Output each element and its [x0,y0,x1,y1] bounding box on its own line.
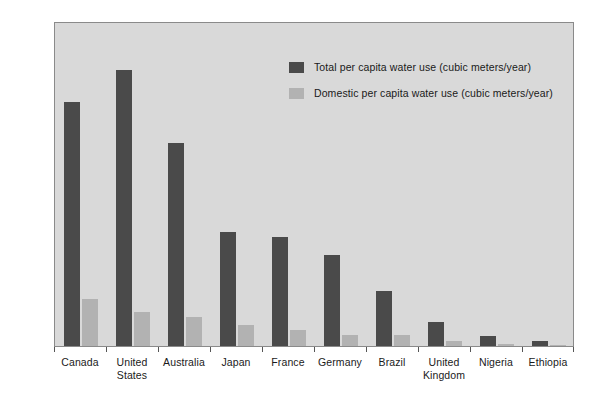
bar-domestic [134,312,150,346]
x-axis-tick-mark [54,347,55,352]
x-axis-tick-mark [314,347,315,352]
bar-domestic [550,345,566,346]
legend-label-domestic: Domestic per capita water use (cubic met… [314,87,553,99]
legend-item-domestic: Domestic per capita water use (cubic met… [289,83,553,103]
x-axis-tick-mark [262,347,263,352]
legend-swatch-total-icon [289,62,304,73]
bar-total [168,143,184,346]
bar-chart: 0500100015002000 CanadaUnited StatesAust… [0,0,592,399]
x-axis: CanadaUnited StatesAustraliaJapanFranceG… [54,347,574,399]
bar-total [532,341,548,346]
bar-domestic [446,341,462,346]
x-axis-tick-mark [522,347,523,352]
x-axis-tick-mark [366,347,367,352]
x-axis-tick-mark [573,347,574,352]
bar-domestic [82,299,98,346]
bar-total [324,255,340,346]
bar-total [272,237,288,346]
chart-legend: Total per capita water use (cubic meters… [289,57,553,109]
bar-total [480,336,496,346]
bar-total [220,232,236,346]
bar-domestic [290,330,306,346]
bar-total [428,322,444,346]
bar-domestic [342,335,358,346]
x-axis-tick-label: Ethiopia [499,356,592,369]
x-axis-tick-mark [210,347,211,352]
bar-domestic [394,335,410,346]
bar-domestic [498,344,514,346]
x-axis-tick-mark [158,347,159,352]
bar-total [116,70,132,346]
x-axis-tick-mark [106,347,107,352]
bar-domestic [238,325,254,346]
x-axis-tick-mark [470,347,471,352]
legend-item-total: Total per capita water use (cubic meters… [289,57,553,77]
legend-swatch-domestic-icon [289,88,304,99]
bar-total [376,291,392,346]
legend-label-total: Total per capita water use (cubic meters… [314,61,531,73]
y-axis: 0500100015002000 [0,0,54,399]
x-axis-tick-mark [418,347,419,352]
bar-total [64,102,80,346]
bar-domestic [186,317,202,346]
